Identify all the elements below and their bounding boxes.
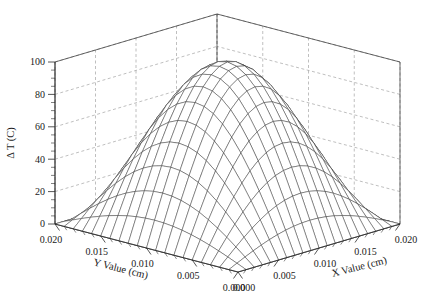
x-axis-title: X Value (cm) xyxy=(330,254,388,279)
svg-text:40: 40 xyxy=(35,154,45,165)
surface-plot-figure: 0204060801000.0200.0150.0100.0050.0000.0… xyxy=(0,0,448,296)
svg-text:0.005: 0.005 xyxy=(177,270,200,281)
plot-canvas: 0204060801000.0200.0150.0100.0050.0000.0… xyxy=(0,0,448,296)
svg-text:0.005: 0.005 xyxy=(273,270,296,281)
svg-text:0.020: 0.020 xyxy=(395,234,418,245)
svg-text:20: 20 xyxy=(35,186,45,197)
z-axis-title: Δ T (C) xyxy=(5,127,17,159)
svg-text:100: 100 xyxy=(30,56,45,67)
surface-mesh xyxy=(55,61,400,272)
svg-text:0.000: 0.000 xyxy=(233,282,256,293)
svg-text:60: 60 xyxy=(35,121,45,132)
svg-text:0.020: 0.020 xyxy=(40,234,63,245)
svg-text:80: 80 xyxy=(35,89,45,100)
svg-text:0: 0 xyxy=(40,218,45,229)
svg-text:0.015: 0.015 xyxy=(354,246,377,257)
svg-text:0.015: 0.015 xyxy=(86,246,109,257)
